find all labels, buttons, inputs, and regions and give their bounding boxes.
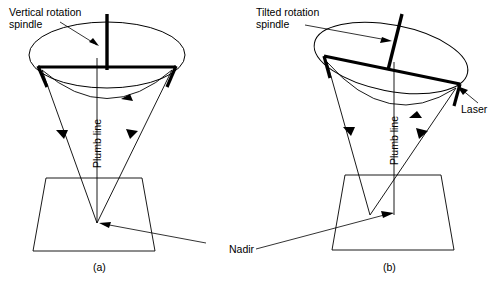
leader-arrow-nadir-a bbox=[99, 222, 111, 228]
beam-arrow-right-a bbox=[126, 129, 138, 139]
label-plumb-line-b: Plumb line bbox=[388, 116, 401, 165]
leader-arrow-spindle-a bbox=[89, 38, 99, 46]
label-nadir: Nadir bbox=[229, 243, 254, 256]
leader-arrow-nadir-b bbox=[381, 211, 394, 218]
label-plumb-line-a: Plumb line bbox=[91, 119, 104, 168]
beam-arrow-left-b bbox=[343, 127, 355, 136]
leader-nadir-a bbox=[104, 224, 206, 243]
rotation-arrow-b bbox=[409, 111, 422, 118]
leader-spindle-b bbox=[305, 25, 387, 40]
ground-surface-b bbox=[332, 175, 454, 250]
cone-edge-right-b bbox=[370, 88, 456, 215]
beam-arrow-right-b bbox=[416, 128, 428, 139]
panel-a bbox=[29, 14, 206, 251]
label-vertical-rotation-spindle-line1: Vertical rotation bbox=[9, 6, 81, 19]
label-tilted-rotation-spindle-line2: spindle bbox=[256, 18, 289, 31]
laser-emitter-left-a bbox=[38, 66, 47, 87]
panel-b bbox=[256, 11, 478, 250]
rotation-arrow-a bbox=[121, 94, 133, 101]
spindle-shaft-b bbox=[388, 14, 402, 70]
label-vertical-rotation-spindle-line2: spindle bbox=[9, 18, 42, 31]
cone-edge-left-a bbox=[42, 70, 97, 223]
laser-emitter-left-b bbox=[324, 56, 330, 78]
sweep-arc-a bbox=[42, 70, 172, 99]
label-laser: Laser bbox=[461, 103, 487, 116]
caption-panel-b: (b) bbox=[383, 261, 396, 273]
caption-panel-a: (a) bbox=[93, 261, 106, 273]
label-tilted-rotation-spindle-line1: Tilted rotation bbox=[256, 6, 319, 19]
leader-arrow-spindle-b bbox=[380, 37, 392, 43]
leader-nadir-b bbox=[256, 214, 388, 249]
figure-canvas: Vertical rotation spindle Tilted rotatio… bbox=[0, 0, 502, 285]
